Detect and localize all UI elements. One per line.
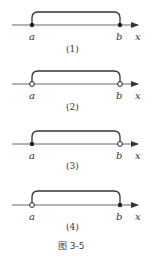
- label-b: b: [116, 211, 122, 222]
- interval-bracket: [32, 71, 120, 82]
- panel-4: a b x (4): [12, 191, 141, 232]
- label-x: x: [135, 211, 141, 222]
- label-x: x: [135, 90, 141, 101]
- open-endpoint-a: [30, 203, 35, 208]
- interval-figure: a b x (1) a b x (2) a b x (3) a b x (4) …: [0, 0, 154, 258]
- panel-caption: (2): [66, 102, 79, 112]
- label-b: b: [116, 31, 122, 42]
- closed-endpoint-b: [118, 23, 122, 27]
- label-x: x: [135, 31, 141, 42]
- label-b: b: [116, 150, 122, 161]
- closed-endpoint-a: [30, 142, 34, 146]
- panel-caption: (3): [66, 161, 79, 171]
- open-endpoint-a: [30, 82, 35, 87]
- interval-bracket: [32, 12, 120, 25]
- label-a: a: [29, 150, 35, 161]
- interval-bracket: [32, 131, 120, 144]
- open-endpoint-b: [118, 142, 123, 147]
- open-endpoint-b: [118, 82, 123, 87]
- figure-caption: 图 3-5: [58, 241, 85, 251]
- label-a: a: [29, 90, 35, 101]
- interval-bracket: [32, 191, 120, 205]
- label-a: a: [29, 211, 35, 222]
- panel-2: a b x (2): [12, 71, 141, 112]
- panel-3: a b x (3): [12, 131, 141, 171]
- label-b: b: [116, 90, 122, 101]
- label-x: x: [135, 150, 141, 161]
- closed-endpoint-b: [118, 203, 122, 207]
- label-a: a: [29, 31, 35, 42]
- panel-caption: (1): [66, 44, 79, 54]
- closed-endpoint-a: [30, 23, 34, 27]
- panel-caption: (4): [66, 222, 79, 232]
- panel-1: a b x (1): [12, 12, 141, 54]
